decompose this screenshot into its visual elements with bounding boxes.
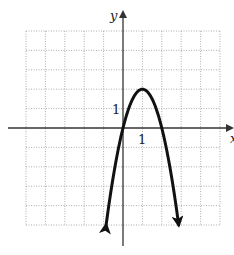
y-tick-label-1: 1: [112, 102, 120, 117]
x-tick-label-1: 1: [138, 132, 146, 147]
parabola-graph: y x 1 1: [0, 0, 234, 255]
y-axis-label: y: [109, 8, 118, 23]
x-axis-label: x: [230, 131, 234, 146]
